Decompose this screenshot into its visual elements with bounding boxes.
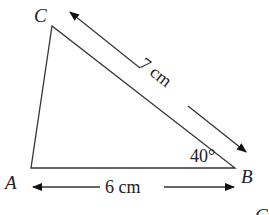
vertex-label-b: B — [241, 166, 253, 187]
vertex-label-c: C — [34, 5, 47, 26]
angle-label-b: 40° — [190, 146, 215, 166]
triangle-diagram: C A B 6 cm 7 cm 40° C — [0, 0, 269, 215]
corner-fragment-label: C — [255, 205, 268, 215]
side-label-bc: 7 cm — [136, 53, 176, 91]
side-label-ab: 6 cm — [105, 177, 141, 197]
dimension-arrow-bc-upper — [70, 12, 140, 68]
vertex-label-a: A — [3, 172, 17, 193]
